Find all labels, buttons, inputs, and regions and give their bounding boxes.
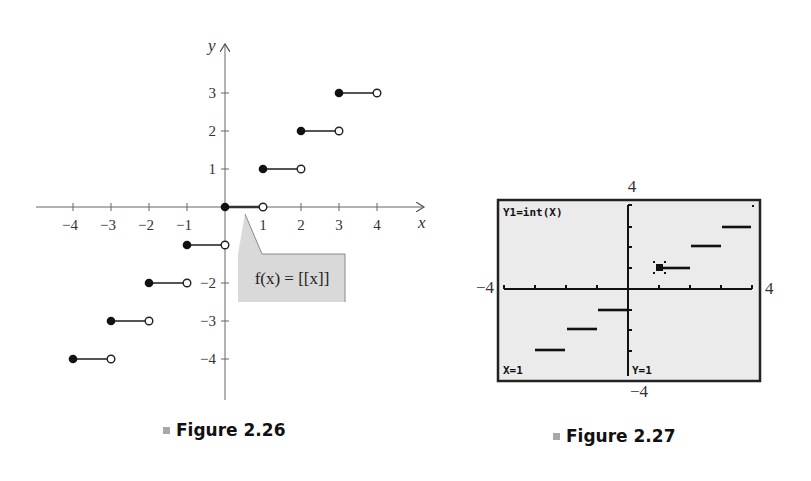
svg-text:−3: −3: [100, 217, 116, 233]
svg-text:1: 1: [259, 217, 267, 233]
svg-text:3: 3: [335, 217, 343, 233]
svg-text:−4: −4: [62, 217, 78, 233]
svg-text:1: 1: [209, 161, 217, 177]
y-tick-labels: 3 2 1 −2 −3 −4: [200, 85, 216, 367]
figure-2-27-calculator-screen: 4 −4 −4 4: [476, 177, 774, 401]
svg-text:−3: −3: [200, 313, 216, 329]
function-callout: f(x) = [[x]]: [238, 214, 345, 302]
caption-bullet-icon: [553, 433, 560, 440]
svg-text:4: 4: [373, 217, 381, 233]
y-axis-label: y: [206, 36, 216, 55]
svg-text:2: 2: [297, 217, 305, 233]
figure-2-26-caption: Figure 2.26: [163, 420, 286, 440]
window-xmax: 4: [765, 279, 774, 298]
svg-text:3: 3: [209, 85, 217, 101]
x-tick-labels: −4 −3 −2 −1 1 2 3 4: [62, 217, 381, 233]
svg-text:2: 2: [209, 123, 217, 139]
figure-2-27-caption: Figure 2.27: [553, 426, 676, 446]
function-label: f(x) = [[x]]: [255, 269, 330, 288]
window-ymin: −4: [630, 382, 649, 401]
svg-text:−4: −4: [200, 351, 216, 367]
window-ymax: 4: [628, 177, 637, 196]
svg-text:−2: −2: [138, 217, 154, 233]
calc-equation: Y1=int(X): [503, 206, 563, 219]
x-axis-label: x: [417, 213, 426, 232]
calc-cursor-y: Y=1: [632, 364, 652, 377]
caption-text: Figure 2.26: [176, 420, 286, 440]
figures-canvas: x y −4 −3 −2 −1 1 2 3 4: [0, 0, 811, 481]
caption-text: Figure 2.27: [566, 426, 676, 446]
svg-text:−2: −2: [200, 275, 216, 291]
caption-bullet-icon: [163, 427, 170, 434]
figure-2-26-graph: x y −4 −3 −2 −1 1 2 3 4: [36, 36, 426, 400]
svg-text:−1: −1: [176, 217, 192, 233]
calc-cursor-x: X=1: [503, 364, 523, 377]
window-xmin: −4: [476, 278, 495, 297]
